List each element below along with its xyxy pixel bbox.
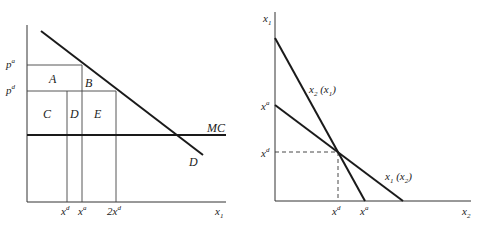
xd-tick-label: xd xyxy=(60,204,70,217)
left-x-axis-label: x1 xyxy=(214,205,223,220)
right-panel: x1 xa xd x2 (x1) x1 (x2) xd xa x2 xyxy=(260,12,471,220)
xd-x-tick-label: xd xyxy=(331,204,341,217)
reaction-x2-label: x2 (x1) xyxy=(308,83,336,98)
right-x-axis-label: x2 xyxy=(461,205,471,220)
xd-y-tick-label: xd xyxy=(260,146,270,159)
pa-label: pa xyxy=(5,57,16,70)
region-b-label: B xyxy=(85,76,93,90)
reaction-curve-x2-of-x1 xyxy=(275,38,365,201)
pd-label: pd xyxy=(5,83,16,96)
region-c-label: C xyxy=(43,107,52,121)
region-d-label: D xyxy=(69,107,79,121)
demand-curve xyxy=(41,31,203,155)
reaction-x1-label: x1 (x2) xyxy=(384,170,412,185)
region-e-label: E xyxy=(93,107,102,121)
xa-tick-label: xa xyxy=(77,204,87,217)
mc-label: MC xyxy=(206,121,226,135)
demand-label: D xyxy=(188,155,198,169)
left-panel: pa pd A B C D E MC D xd xa 2xd x1 xyxy=(5,25,226,220)
region-a-label: A xyxy=(48,72,57,86)
reaction-curve-x1-of-x2 xyxy=(275,105,403,201)
diagram-canvas: pa pd A B C D E MC D xd xa 2xd x1 x1 xa … xyxy=(0,0,483,227)
xa-x-tick-label: xa xyxy=(359,204,369,217)
right-y-axis-label: x1 xyxy=(262,12,271,27)
2xd-tick-label: 2xd xyxy=(107,204,121,217)
xa-y-tick-label: xa xyxy=(260,99,270,112)
